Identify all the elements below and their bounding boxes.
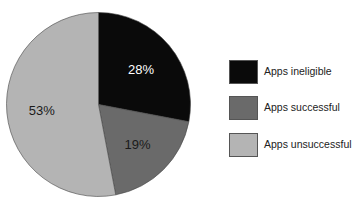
legend-swatch (229, 133, 258, 157)
slice-label: 53% (29, 102, 55, 117)
legend-swatch (229, 60, 258, 84)
slice-label: 28% (128, 62, 154, 77)
legend-label: Apps unsuccessful (264, 138, 352, 150)
legend-item-successful: Apps successful (229, 96, 349, 120)
legend-label: Apps ineligible (264, 65, 332, 77)
legend-swatch (229, 96, 258, 120)
legend-label: Apps successful (264, 101, 340, 113)
legend-item-ineligible: Apps ineligible (229, 60, 349, 84)
legend-item-unsuccessful: Apps unsuccessful (229, 133, 349, 157)
slice-label: 19% (125, 136, 151, 151)
